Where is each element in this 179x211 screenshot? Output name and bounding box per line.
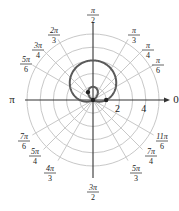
radial-tick-label: 2 xyxy=(115,103,120,114)
fraction-numerator: 5π xyxy=(31,147,40,156)
fraction-numerator: 5π xyxy=(132,164,141,173)
point-marker xyxy=(91,98,95,102)
point-marker xyxy=(104,98,108,102)
fraction-numerator: π xyxy=(132,26,137,35)
angle-label-fraction: 2π3 xyxy=(48,26,60,45)
fraction-denominator: 3 xyxy=(132,36,136,45)
axis-arrow-icon xyxy=(164,98,170,103)
fraction-denominator: 4 xyxy=(36,51,40,60)
angle-label-fraction: π3 xyxy=(128,26,140,45)
fraction-numerator: π xyxy=(91,6,96,15)
angle-label-fraction: 7π4 xyxy=(145,147,157,166)
fraction-denominator: 2 xyxy=(91,16,95,25)
angle-label-fraction: 11π6 xyxy=(156,132,169,151)
fraction-denominator: 4 xyxy=(146,51,150,60)
fraction-denominator: 6 xyxy=(156,66,160,75)
angle-label: 0 xyxy=(173,93,179,105)
angle-labels: 0π6π4π3π22π33π45π6π7π65π44π33π25π37π411π… xyxy=(9,6,179,202)
fraction-denominator: 4 xyxy=(33,157,37,166)
fraction-denominator: 3 xyxy=(48,174,52,183)
fraction-numerator: 2π xyxy=(50,26,59,35)
fraction-numerator: 11π xyxy=(156,132,168,141)
angle-label-fraction: 4π3 xyxy=(44,164,56,183)
angle-label-fraction: π6 xyxy=(152,56,164,75)
radial-tick-label: 4 xyxy=(141,103,146,114)
fraction-denominator: 3 xyxy=(134,174,138,183)
angle-label-fraction: π2 xyxy=(87,6,99,25)
fraction-numerator: 7π xyxy=(20,132,29,141)
angle-label-fraction: 5π4 xyxy=(29,147,41,166)
fraction-numerator: 3π xyxy=(88,183,98,192)
fraction-denominator: 6 xyxy=(160,142,164,151)
fraction-numerator: 5π xyxy=(22,55,31,64)
fraction-denominator: 3 xyxy=(52,36,56,45)
fraction-numerator: π xyxy=(156,56,161,65)
fraction-denominator: 6 xyxy=(22,142,26,151)
angle-label-fraction: 5π3 xyxy=(130,164,142,183)
fraction-numerator: 3π xyxy=(33,41,43,50)
angle-label-fraction: 3π2 xyxy=(87,183,99,202)
fraction-denominator: 2 xyxy=(91,193,95,202)
angle-label-fraction: 5π6 xyxy=(20,55,32,74)
angle-label: π xyxy=(9,93,15,105)
angle-label-fraction: 7π6 xyxy=(18,132,30,151)
fraction-denominator: 6 xyxy=(24,65,28,74)
fraction-denominator: 4 xyxy=(149,157,153,166)
point-marker xyxy=(86,90,90,94)
polar-plot: 0π6π4π3π22π33π45π6π7π65π44π33π25π37π411π… xyxy=(0,0,179,211)
fraction-numerator: 4π xyxy=(46,164,55,173)
fraction-numerator: π xyxy=(146,41,151,50)
fraction-numerator: 7π xyxy=(147,147,156,156)
